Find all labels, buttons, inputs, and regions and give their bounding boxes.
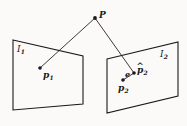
- error-label-e: e: [125, 70, 130, 78]
- point-label-p1: p1: [43, 71, 53, 80]
- point-label-P-text: P: [99, 10, 106, 20]
- error-label-e-text: e: [125, 69, 130, 79]
- point-label-p2-hat: ^p2: [137, 66, 147, 75]
- point-label-P: P: [99, 11, 106, 20]
- left-plane-label: I1: [17, 45, 25, 54]
- right-plane-label-subscript: 2: [164, 53, 168, 60]
- point-label-p2: p2: [118, 84, 128, 93]
- left-plane-label-subscript: 1: [21, 48, 25, 55]
- right-plane-label: I2: [160, 50, 168, 59]
- ray-p-to-p2-hat: [95, 18, 134, 73]
- ray-p-to-p1: [40, 18, 95, 68]
- point-marker-p2-hat: [132, 71, 136, 75]
- point-marker-p1: [38, 66, 42, 70]
- epipolar-geometry-figure: I1 I2 P p1 p2 ^p2 e: [0, 0, 187, 126]
- point-label-p1-subscript: 1: [49, 74, 53, 81]
- point-label-p2-subscript: 2: [124, 87, 128, 94]
- figure-canvas: [0, 0, 187, 126]
- point-label-p2-hat-subscript: 2: [143, 69, 147, 76]
- point-marker-P: [93, 16, 97, 20]
